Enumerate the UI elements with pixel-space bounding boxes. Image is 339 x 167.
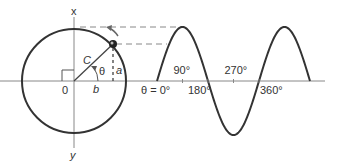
wave-start-label: θ = 0° (141, 84, 170, 96)
wave-tick-label: 90° (174, 64, 191, 76)
adjacent-label: b (93, 83, 99, 95)
vertical-axis-top-label: x (71, 5, 77, 17)
vertical-axis-bottom-label: y (69, 149, 77, 161)
wave-tick-label: 180° (188, 84, 211, 96)
phasor-radius (74, 44, 113, 81)
wave-tick-label: 360° (260, 84, 283, 96)
wave-ticks: 90°180°270°360° (174, 64, 283, 96)
rotation-arrowhead (106, 25, 112, 31)
wave-tick-label: 270° (225, 64, 248, 76)
phasor-sine-diagram: x y 0 C θ a b 90°180°270°360° θ = 0° (0, 0, 339, 167)
hypotenuse-label: C (83, 54, 91, 66)
angle-arc-arrowhead (91, 66, 97, 71)
opposite-label: a (116, 64, 122, 76)
phasor-point-highlight (111, 42, 114, 45)
origin-label: 0 (62, 84, 68, 96)
angle-label: θ (99, 65, 105, 77)
right-angle-marker (62, 70, 74, 81)
